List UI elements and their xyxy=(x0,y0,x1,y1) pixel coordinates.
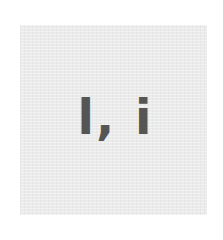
letter-tile: l, i xyxy=(20,25,207,215)
tile-text: l, i xyxy=(78,93,154,141)
glyph-container: l, i xyxy=(20,25,207,215)
